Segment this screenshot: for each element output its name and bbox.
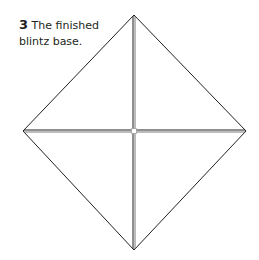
blintz-base-diagram <box>0 0 259 260</box>
center-gap <box>132 129 137 134</box>
